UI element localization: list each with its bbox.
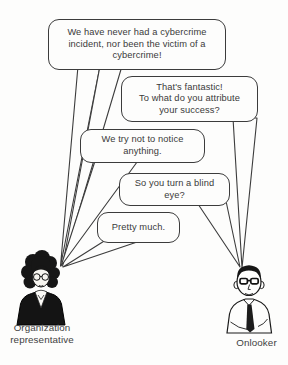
bubble-line: cybercrime!	[49, 50, 225, 62]
label-line: Organization	[5, 322, 79, 334]
bubble-line: To what do you attribute	[122, 93, 257, 105]
speech-bubble-4: So you turn a blind eye?	[119, 173, 230, 206]
label-line: representative	[5, 334, 79, 346]
speech-bubble-5: Pretty much.	[97, 212, 180, 243]
label-line: Onlooker	[221, 337, 288, 349]
bubble-line: We try not to notice	[81, 134, 204, 146]
cartoon-canvas: We have never had a cybercrime incident,…	[0, 0, 288, 365]
speech-bubble-3: We try not to notice anything.	[80, 129, 205, 163]
label-organization-representative: Organization representative	[5, 322, 79, 345]
bubble-line: your success?	[122, 105, 257, 117]
label-onlooker: Onlooker	[221, 337, 288, 349]
bubble-line: We have never had a cybercrime	[49, 27, 225, 39]
bubble-2-tail	[233, 118, 257, 268]
bubble-line: That's fantastic!	[122, 82, 257, 94]
speech-bubble-1: We have never had a cybercrime incident,…	[48, 19, 226, 70]
bubble-line: eye?	[120, 190, 229, 202]
bubble-line: Pretty much.	[98, 222, 179, 234]
bubble-line: So you turn a blind	[120, 178, 229, 190]
figure-organization-representative	[17, 250, 65, 325]
bubble-line: incident, nor been the victim of a	[49, 39, 225, 51]
speech-bubble-2: That's fantastic! To what do you attribu…	[121, 76, 258, 122]
figure-onlooker	[227, 265, 272, 333]
bubble-line: anything.	[81, 146, 204, 158]
bubble-4-tail	[196, 201, 240, 267]
